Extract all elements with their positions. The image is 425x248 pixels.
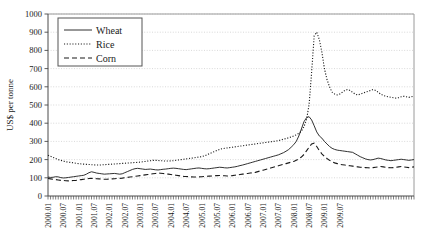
x-tick-label: 2004.07 [182,203,191,228]
x-tick-label: 2008.07 [305,203,314,228]
y-tick-label: 700 [29,64,42,74]
x-tick-label: 2005.07 [213,203,222,228]
x-tick-label: 2001.01 [75,203,84,228]
x-tick-label: 2005.01 [198,203,207,228]
x-tick-label: 2008.01 [290,203,299,228]
y-tick-label: 200 [29,155,42,165]
x-tick-label: 2002.07 [121,203,130,228]
x-tick-label: 2007.07 [274,203,283,228]
y-axis-title: US$ per tonne [5,79,15,131]
x-tick-label: 2003.07 [151,203,160,228]
legend-label-wheat: Wheat [96,25,122,36]
x-tick-label: 2002.01 [105,203,114,228]
price-chart: 010020030040050060070080090010002000.012… [0,0,425,248]
chart-canvas: 010020030040050060070080090010002000.012… [0,0,425,248]
x-tick-label: 2007.01 [259,203,268,228]
x-tick-label: 2000.07 [59,203,68,228]
x-tick-label: 2000.01 [44,203,53,228]
x-tick-label: 2001.07 [90,203,99,228]
x-tick-label: 2006.07 [244,203,253,228]
y-tick-label: 800 [29,45,42,55]
series-line-wheat [48,117,414,178]
y-tick-label: 900 [29,27,42,37]
y-tick-label: 600 [29,82,42,92]
x-tick-label: 2004.01 [167,203,176,228]
y-tick-label: 300 [29,136,42,146]
x-tick-label: 2009.07 [336,203,345,228]
y-tick-label: 400 [29,118,42,128]
x-tick-label: 2003.01 [136,203,145,228]
series-line-corn [48,143,414,181]
legend-label-corn: Corn [96,53,116,64]
x-tick-label: 2006.01 [228,203,237,228]
legend-label-rice: Rice [96,39,115,50]
y-tick-label: 0 [38,191,42,201]
y-tick-label: 100 [29,173,42,183]
y-tick-label: 1000 [25,9,42,19]
x-tick-label: 2009.01 [320,203,329,228]
y-tick-label: 500 [29,100,42,110]
